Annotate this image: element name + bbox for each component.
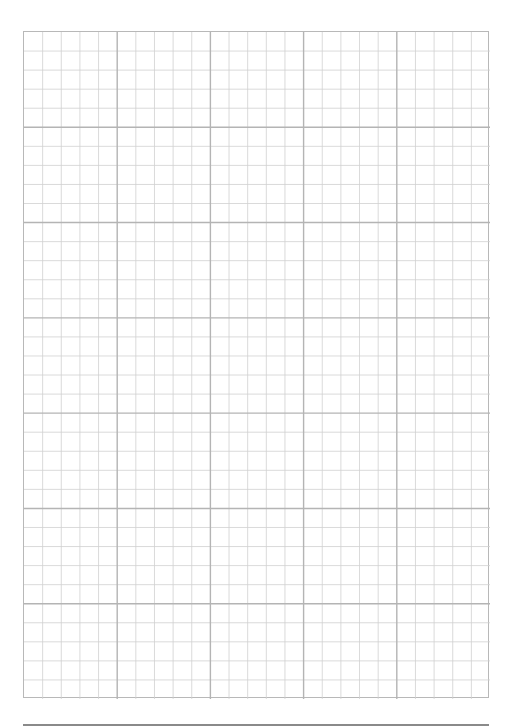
grid-lines	[24, 32, 490, 699]
graph-paper-grid	[23, 31, 489, 698]
footer-rule	[23, 724, 489, 726]
